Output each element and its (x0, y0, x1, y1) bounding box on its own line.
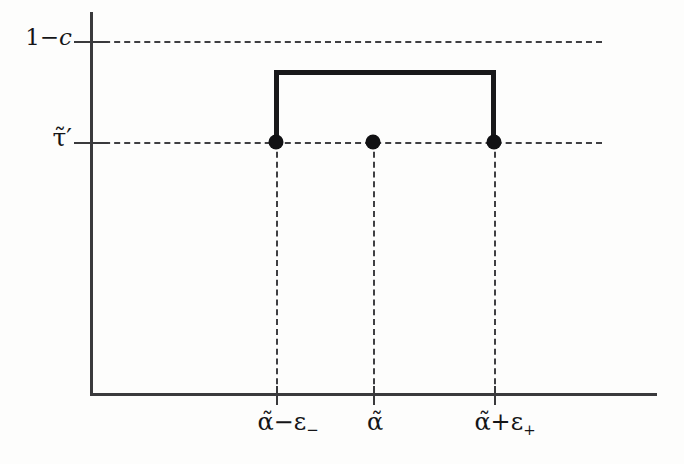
y-axis-label-1-minus-c-italic: c (59, 24, 72, 50)
x-axis-label-alpha-minus-eps-base: α̃−ε (257, 408, 306, 436)
x-tick-alpha-plus-eps (494, 386, 496, 405)
x-axis-label-alpha-minus-eps: α̃−ε− (257, 410, 318, 438)
guide-line-alpha-plus-eps (494, 142, 496, 394)
y-axis-label-1-minus-c-prefix: 1− (25, 24, 59, 50)
guide-line-alpha (373, 142, 375, 394)
plateau-top-segment (274, 70, 496, 75)
x-axis-label-alpha: α̃ (367, 410, 383, 434)
x-tick-alpha (373, 386, 375, 405)
guide-line-1-minus-c (74, 41, 602, 43)
plateau-right-riser (491, 72, 496, 144)
marker-left (269, 135, 284, 150)
guide-line-tau-prime (74, 142, 602, 144)
x-axis-label-alpha-plus-eps-base: α̃+ε (474, 408, 523, 436)
y-axis-line (90, 12, 93, 396)
x-tick-alpha-minus-eps (276, 386, 278, 405)
figure-canvas: 1−c τ̃′ α̃−ε− α̃ α̃+ε+ (0, 0, 684, 464)
plateau-left-riser (274, 72, 279, 144)
y-axis-label-1-minus-c: 1−c (25, 26, 72, 49)
marker-right (487, 135, 502, 150)
y-axis-label-tau-prime: τ̃′ (52, 125, 72, 150)
x-axis-label-alpha-minus-eps-subscript: − (306, 421, 318, 439)
x-axis-label-alpha-plus-eps: α̃+ε+ (474, 410, 535, 438)
guide-line-alpha-minus-eps (276, 142, 278, 394)
marker-center (366, 135, 381, 150)
x-axis-label-alpha-plus-eps-subscript: + (523, 421, 535, 439)
